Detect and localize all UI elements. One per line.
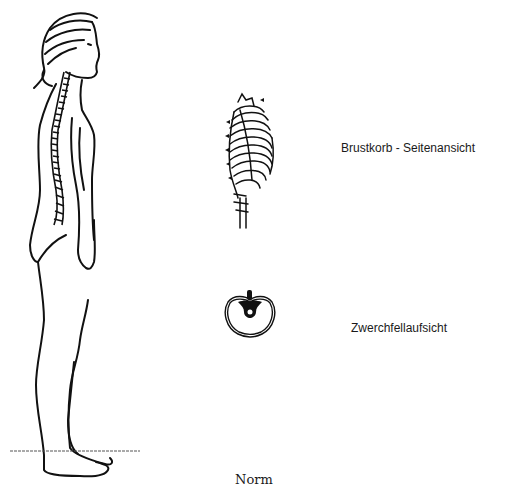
figure-caption: Norm — [235, 472, 273, 487]
standing-figure-illustration — [0, 0, 180, 498]
diagram-canvas: Brustkorb - Seitenansicht Zwerchfellaufs… — [0, 0, 513, 498]
diaphragm-label: Zwerchfellaufsicht — [351, 321, 447, 335]
ribcage-side-view-illustration — [220, 90, 280, 230]
diaphragm-top-view-illustration — [220, 288, 280, 342]
ribcage-label: Brustkorb - Seitenansicht — [341, 141, 475, 155]
